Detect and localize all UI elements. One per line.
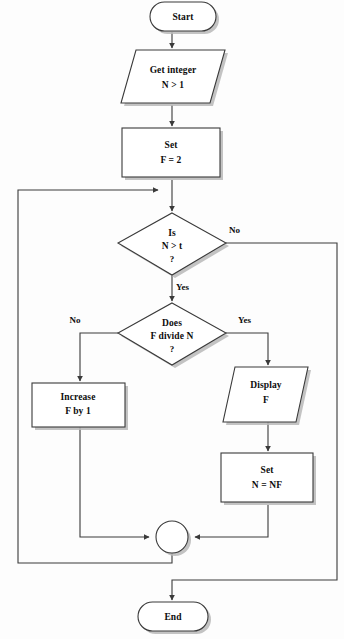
node-increase-f-line1: Increase: [61, 392, 96, 402]
node-decision-n-gt-t[interactable]: Is N > t ?: [118, 213, 229, 278]
node-start-label: Start: [172, 12, 194, 22]
edge-label-decision1-yes: Yes: [176, 282, 189, 292]
node-connector-circle[interactable]: [156, 521, 191, 556]
node-set-f-line1: Set: [165, 140, 179, 150]
node-set-f[interactable]: Set F = 2: [122, 128, 223, 180]
node-get-integer-line1: Get integer: [150, 65, 197, 75]
node-end-label: End: [164, 612, 182, 622]
node-decision1-line1: Is: [168, 228, 176, 238]
node-decision1-line3: ?: [170, 254, 175, 264]
node-decision-f-divides-n[interactable]: Does F divide N ?: [118, 303, 229, 368]
node-decision1-line2: N > t: [162, 241, 183, 251]
edge-decision2-yes-to-display: [226, 333, 268, 365]
node-set-n-line2: N = NF: [252, 480, 282, 490]
flowchart-canvas: Start Get integer N > 1 Set F = 2 Is N >…: [0, 0, 344, 639]
node-display-f[interactable]: Display F: [223, 367, 311, 425]
node-display-f-line2: F: [263, 395, 269, 405]
node-increase-f[interactable]: Increase F by 1: [32, 383, 128, 430]
edge-label-decision1-no: No: [229, 225, 240, 235]
edge-label-decision2-no: No: [70, 315, 81, 325]
node-get-integer-line2: N > 1: [162, 80, 184, 90]
edge-label-decision2-yes: Yes: [238, 315, 251, 325]
edge-increase-to-connector: [80, 427, 149, 537]
node-set-f-line2: F = 2: [161, 155, 182, 165]
node-set-n-line1: Set: [261, 465, 275, 475]
node-decision2-line2: F divide N: [151, 331, 194, 341]
node-set-n[interactable]: Set N = NF: [221, 453, 316, 505]
node-get-integer[interactable]: Get integer N > 1: [121, 50, 228, 106]
node-decision2-line1: Does: [162, 318, 182, 328]
node-display-f-line1: Display: [250, 380, 281, 390]
node-decision2-line3: ?: [170, 344, 175, 354]
flowchart-svg: Start Get integer N > 1 Set F = 2 Is N >…: [0, 0, 344, 639]
edge-set-n-to-connector: [195, 505, 268, 537]
node-end[interactable]: End: [138, 602, 211, 634]
node-start[interactable]: Start: [150, 2, 219, 34]
node-increase-f-line2: F by 1: [65, 406, 91, 416]
edge-decision2-no-to-increase: [80, 333, 118, 381]
